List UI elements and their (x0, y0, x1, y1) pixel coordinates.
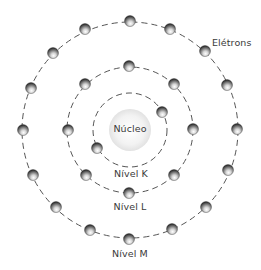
electron-level-m (165, 24, 176, 35)
electron-level-m (223, 165, 234, 176)
electron-level-l (169, 79, 180, 90)
electron-level-k (92, 143, 103, 154)
electron-level-m (48, 48, 59, 59)
electron-level-m (200, 46, 211, 57)
electron-level-k (157, 107, 168, 118)
electron-level-m (28, 170, 39, 181)
level-m-label: Nível M (112, 249, 148, 259)
electron-level-m (85, 225, 96, 236)
electron-level-m (124, 234, 135, 245)
electron-level-l (188, 124, 199, 135)
electron-level-l (81, 170, 92, 181)
level-l-label: Nível L (114, 202, 147, 212)
electron-level-m (80, 24, 91, 35)
electron-level-m (26, 83, 37, 94)
electron-level-l (63, 125, 74, 136)
electron-level-m (51, 202, 62, 213)
level-k-label: Nível K (114, 169, 148, 179)
electron-level-l (169, 170, 180, 181)
electron-level-m (222, 80, 233, 91)
nucleus-label: Núcleo (113, 124, 146, 134)
electron-level-m (201, 202, 212, 213)
electron-level-l (80, 79, 91, 90)
electrons-label: Elétrons (212, 38, 252, 48)
electron-level-l (124, 188, 135, 199)
electron-level-l (124, 61, 135, 72)
electron-level-m (18, 125, 29, 136)
electron-level-m (125, 16, 136, 27)
electron-level-m (232, 124, 243, 135)
electron-level-m (167, 224, 178, 235)
